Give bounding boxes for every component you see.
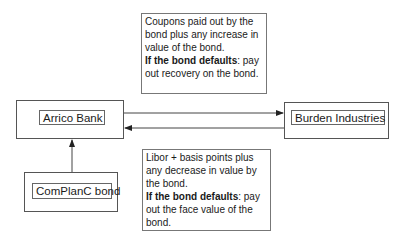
node-burden-industries[interactable]: Burden Industries [284, 102, 389, 139]
node-complanc-bond[interactable]: ComPlanC bond [24, 172, 118, 212]
note-top-text: Coupons paid out by the bond plus any in… [145, 16, 258, 53]
note-bottom-default-label: If the bond defaults [146, 191, 238, 202]
note-top-default-label: If the bond defaults [145, 55, 237, 66]
node-arrico-bank-label: Arrico Bank [39, 110, 105, 125]
node-burden-industries-label: Burden Industries [291, 110, 385, 125]
note-bottom-text: Libor + basis points plus any decrease i… [146, 152, 257, 189]
note-bottom-payment-terms: Libor + basis points plus any decrease i… [142, 149, 271, 231]
note-top-payment-terms: Coupons paid out by the bond plus any in… [141, 13, 267, 94]
node-complanc-bond-label: ComPlanC bond [32, 183, 112, 199]
node-arrico-bank[interactable]: Arrico Bank [16, 100, 124, 139]
